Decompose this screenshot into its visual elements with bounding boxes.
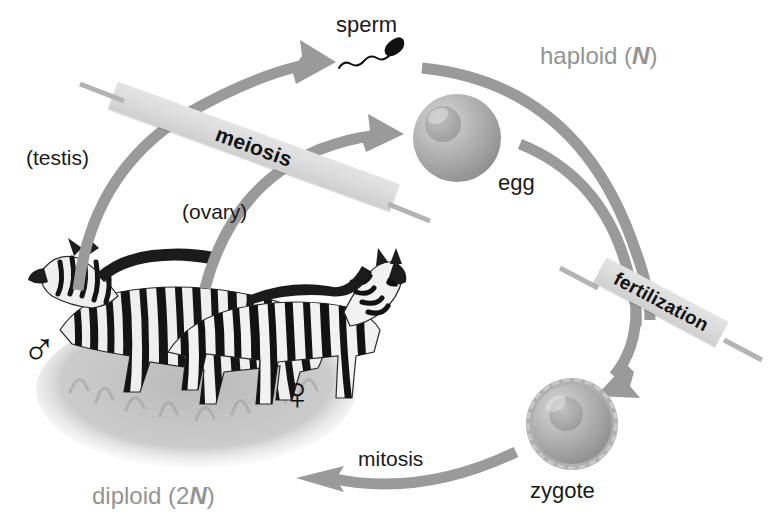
diploid-label: diploid (2N) (92, 482, 215, 510)
haploid-n: N (632, 42, 649, 69)
female-symbol: ♀ (280, 370, 315, 416)
haploid-paren: ) (649, 42, 657, 69)
arc-egg-to-fertilization (520, 144, 636, 326)
haploid-text: haploid ( (540, 42, 632, 69)
ovary-label: (ovary) (182, 200, 247, 224)
haploid-label: haploid (N) (540, 42, 657, 70)
diploid-n: N (189, 482, 206, 509)
diagram-graphics (0, 0, 776, 522)
diploid-text: diploid (2 (92, 482, 189, 509)
diploid-paren: ) (207, 482, 215, 509)
arrow-fertilization-to-zygote (596, 310, 640, 398)
mitosis-label: mitosis (358, 447, 423, 471)
sperm-label: sperm (336, 12, 397, 38)
testis-label: (testis) (26, 146, 89, 170)
zygote-label: zygote (530, 478, 595, 504)
life-cycle-diagram: meiosis fertilization sperm egg zygote h… (0, 0, 776, 522)
sperm-cell (339, 37, 404, 68)
egg-cell (413, 94, 501, 182)
egg-label: egg (498, 170, 535, 196)
zygote-cell (526, 378, 618, 470)
male-symbol: ♂ (22, 326, 57, 372)
